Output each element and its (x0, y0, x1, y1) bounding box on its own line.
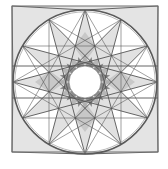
geometric-star-diagram (0, 0, 168, 169)
inner-circle (69, 66, 101, 98)
